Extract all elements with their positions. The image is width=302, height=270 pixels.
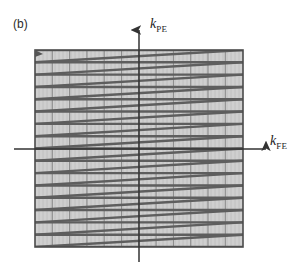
figure-root: (b) kPE kFE bbox=[0, 0, 302, 270]
kspace-trajectory-plot bbox=[0, 0, 302, 270]
